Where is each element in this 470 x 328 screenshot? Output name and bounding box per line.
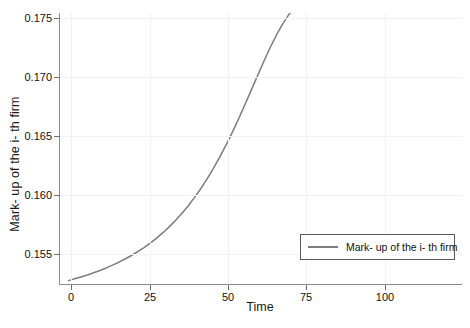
gridline-vertical bbox=[228, 13, 229, 285]
legend-line-swatch bbox=[308, 246, 338, 247]
x-tick-mark bbox=[385, 285, 386, 290]
gridline-vertical bbox=[71, 13, 72, 285]
y-tick-mark bbox=[54, 254, 60, 255]
x-tick-mark bbox=[306, 285, 307, 290]
gridline-vertical bbox=[150, 13, 151, 285]
y-tick-label: 0.170 bbox=[0, 71, 52, 83]
x-axis-label: Time bbox=[59, 300, 461, 314]
y-tick-label: 0.175 bbox=[0, 12, 52, 24]
y-tick-mark bbox=[54, 18, 60, 19]
x-tick-mark bbox=[228, 285, 229, 290]
chart-legend: Mark- up of the i- th firm bbox=[300, 234, 455, 260]
chart-figure: Mark- up of the i- th firm 0.175 0.170 0… bbox=[0, 0, 470, 328]
gridline-horizontal bbox=[59, 195, 462, 196]
gridline-horizontal bbox=[59, 136, 462, 137]
y-tick-mark bbox=[54, 77, 60, 78]
legend-entry-label: Mark- up of the i- th firm bbox=[346, 241, 457, 253]
y-tick-label: 0.155 bbox=[0, 248, 52, 260]
y-tick-mark bbox=[54, 195, 60, 196]
y-tick-label: 0.160 bbox=[0, 189, 52, 201]
gridline-horizontal bbox=[59, 77, 462, 78]
y-tick-label: 0.165 bbox=[0, 130, 52, 142]
x-tick-mark bbox=[150, 285, 151, 290]
y-axis-label: Mark- up of the i- th firm bbox=[0, 0, 30, 328]
x-tick-mark bbox=[71, 285, 72, 290]
y-tick-mark bbox=[54, 136, 60, 137]
x-axis-line bbox=[59, 284, 462, 285]
y-axis-line bbox=[59, 13, 60, 285]
gridline-horizontal bbox=[59, 18, 462, 19]
